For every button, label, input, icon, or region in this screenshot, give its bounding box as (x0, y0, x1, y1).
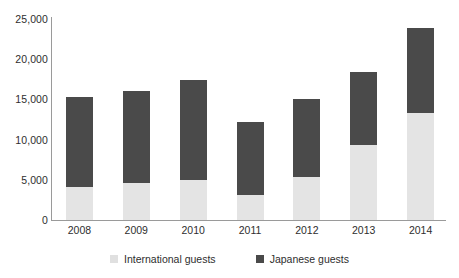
y-axis-tick-labels: 05,00010,00015,00020,00025,000 (0, 0, 48, 278)
bar-segment-international (293, 177, 320, 220)
bar-segment-japanese (66, 97, 93, 188)
x-axis-tick-label: 2010 (163, 224, 223, 236)
bar-segment-international (407, 113, 434, 220)
bar-segment-japanese (123, 91, 150, 183)
bar-segment-japanese (350, 72, 377, 144)
bar-segment-international (350, 145, 377, 220)
y-axis-tick-label: 25,000 (2, 14, 48, 25)
x-axis-tick-label: 2012 (277, 224, 337, 236)
legend-item-japanese[interactable]: Japanese guests (256, 254, 349, 265)
bar-group[interactable] (123, 19, 150, 220)
light-gray-swatch-icon (110, 255, 118, 263)
dark-gray-swatch-icon (256, 255, 264, 263)
stacked-bar-chart: 05,00010,00015,00020,00025,000 200820092… (0, 0, 459, 278)
bar-group[interactable] (293, 19, 320, 220)
y-axis-tick-label: 15,000 (2, 94, 48, 105)
chart-legend: International guests Japanese guests (0, 251, 459, 267)
y-axis-tick-label: 0 (2, 215, 48, 226)
x-axis-tick-label: 2014 (391, 224, 451, 236)
bar-segment-international (66, 187, 93, 220)
y-axis-tick-label: 20,000 (2, 54, 48, 65)
bar-group[interactable] (180, 19, 207, 220)
x-axis-tick-label: 2013 (334, 224, 394, 236)
bar-group[interactable] (66, 19, 93, 220)
legend-item-international[interactable]: International guests (110, 254, 216, 265)
plot-area (51, 19, 449, 220)
bar-segment-japanese (180, 80, 207, 180)
bar-segment-international (123, 183, 150, 220)
y-axis-tick-label: 10,000 (2, 135, 48, 146)
x-axis-tick-label: 2011 (220, 224, 280, 236)
bar-group[interactable] (350, 19, 377, 220)
bar-segment-japanese (407, 28, 434, 112)
bar-segment-international (237, 195, 264, 220)
bar-group[interactable] (407, 19, 434, 220)
y-axis-tick-label: 5,000 (2, 175, 48, 186)
x-axis-tick-label: 2009 (106, 224, 166, 236)
x-axis-tick-label: 2008 (49, 224, 109, 236)
legend-label-international: International guests (124, 254, 216, 265)
bar-segment-japanese (237, 122, 264, 195)
bar-segment-japanese (293, 99, 320, 177)
bar-group[interactable] (237, 19, 264, 220)
bar-segment-international (180, 180, 207, 220)
x-axis-line (51, 220, 446, 221)
legend-label-japanese: Japanese guests (270, 254, 349, 265)
